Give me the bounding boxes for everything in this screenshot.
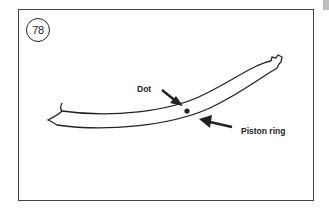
ring-arrow-icon: [199, 115, 232, 128]
piston-ring-upper-edge: [62, 61, 271, 114]
piston-ring-left-break: [48, 103, 62, 125]
piston-ring-label: Piston ring: [241, 126, 285, 136]
piston-ring-right-break: [271, 55, 282, 68]
piston-ring-illustration: [0, 0, 329, 210]
dot-arrow-icon: [162, 90, 183, 106]
ring-dot-marker: [184, 108, 189, 113]
dot-label: Dot: [137, 84, 151, 94]
piston-ring-lower-edge: [57, 68, 277, 128]
